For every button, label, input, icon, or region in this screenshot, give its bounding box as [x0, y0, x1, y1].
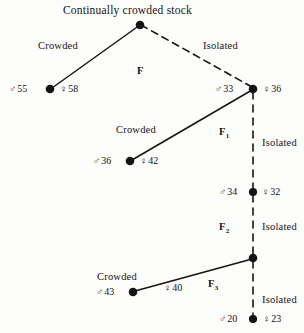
count-value: 40 — [172, 282, 182, 293]
diagram-title: Continually crowded stock — [63, 5, 192, 17]
generation-label-f2-sub: 2 — [226, 227, 230, 235]
node-f-crowded — [46, 85, 55, 94]
female-symbol-icon: ♀ — [164, 283, 172, 293]
generation-label-f1: F1 — [219, 127, 229, 140]
branch-label-crowded-f3: Crowded — [97, 272, 137, 283]
generation-label-f: F — [137, 66, 144, 77]
count-f1-isolated-male: ♂34 — [219, 187, 237, 198]
count-f-isolated-male: ♂33 — [215, 84, 233, 95]
branch-label-crowded-f1: Crowded — [116, 125, 156, 136]
count-value: 36 — [101, 155, 111, 166]
male-symbol-icon: ♂ — [219, 314, 227, 324]
count-value: 58 — [68, 83, 78, 94]
node-f1-isolated — [249, 188, 257, 196]
count-f3-isolated-female: ♀23 — [263, 314, 281, 325]
female-symbol-icon: ♀ — [263, 84, 271, 94]
node-apex — [136, 21, 145, 30]
generation-label-f1-base: F — [219, 126, 226, 137]
edge-apex-to-f-crowded — [52, 25, 140, 88]
count-f3-crowded-male: ♂43 — [96, 287, 114, 298]
branch-label-isolated-top: Isolated — [203, 41, 238, 52]
count-value: 23 — [271, 313, 281, 324]
male-symbol-icon: ♂ — [9, 84, 17, 94]
node-f3-isolated — [249, 315, 257, 323]
count-f-isolated-female: ♀36 — [263, 84, 281, 95]
count-f1-crowded-female: ♀42 — [140, 156, 158, 167]
generation-label-f3: F3 — [208, 279, 218, 292]
count-value: 33 — [223, 83, 233, 94]
male-symbol-icon: ♂ — [96, 287, 104, 297]
count-value: 32 — [270, 186, 280, 197]
node-f1-crowded — [126, 157, 135, 166]
female-symbol-icon: ♀ — [60, 84, 68, 94]
generation-label-f1-sub: 1 — [226, 132, 230, 140]
count-value: 34 — [227, 186, 237, 197]
count-value: 55 — [17, 83, 27, 94]
count-value: 36 — [271, 83, 281, 94]
male-symbol-icon: ♂ — [215, 84, 223, 94]
count-f1-crowded-male: ♂36 — [93, 156, 111, 167]
generation-label-f2: F2 — [219, 222, 229, 235]
count-value: 43 — [104, 286, 114, 297]
female-symbol-icon: ♀ — [262, 187, 270, 197]
count-value: 20 — [227, 313, 237, 324]
male-symbol-icon: ♂ — [219, 187, 227, 197]
count-f-crowded-female: ♀58 — [60, 84, 78, 95]
female-symbol-icon: ♀ — [263, 314, 271, 324]
male-symbol-icon: ♂ — [93, 156, 101, 166]
count-value: 42 — [148, 155, 158, 166]
node-f3-crowded — [129, 288, 138, 297]
count-f1-isolated-female: ♀32 — [262, 187, 280, 198]
count-f3-isolated-male: ♂20 — [219, 314, 237, 325]
count-f-crowded-male: ♂55 — [9, 84, 27, 95]
branch-label-isolated-f1: Isolated — [262, 138, 297, 149]
count-f3-crowded-female: ♀40 — [164, 283, 182, 294]
branch-label-isolated-f3: Isolated — [262, 295, 297, 306]
node-f2-isolated — [249, 254, 258, 263]
generation-label-f2-base: F — [219, 221, 226, 232]
lineage-diagram: Continually crowded stock Crowded Isolat… — [0, 0, 304, 333]
edge-f2-to-f3-crowded — [135, 259, 252, 291]
branch-label-crowded-top: Crowded — [38, 41, 78, 52]
generation-label-f3-sub: 3 — [215, 284, 219, 292]
node-f-isolated — [249, 85, 258, 94]
branch-label-isolated-f2: Isolated — [262, 222, 297, 233]
edge-apex-to-f-isolated — [141, 25, 252, 87]
female-symbol-icon: ♀ — [140, 156, 148, 166]
generation-label-f3-base: F — [208, 278, 215, 289]
